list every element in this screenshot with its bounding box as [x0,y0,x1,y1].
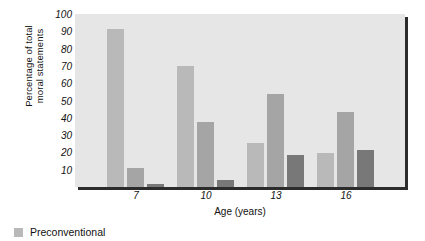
legend-swatch-preconventional [14,228,23,237]
x-axis-tick-labels: 7101316 [75,190,405,204]
legend-label-preconventional: Preconventional [30,226,105,238]
plot-area [75,14,405,187]
y-axis-tick-labels: 102030405060708090100 [40,10,72,190]
bar-age-13-series-0 [247,143,264,187]
bar-age-7-series-0 [107,29,124,187]
x-tick-16: 16 [340,190,351,201]
y-tick-80: 80 [61,43,72,54]
bar-age-10-series-1 [197,122,214,187]
bar-age-16-series-2 [357,150,374,187]
bar-group-age-10 [177,14,240,187]
chart-legend: Preconventional [14,226,105,238]
x-tick-7: 7 [133,190,139,201]
bar-group-age-13 [247,14,310,187]
y-tick-10: 10 [61,164,72,175]
x-tick-10: 10 [200,190,211,201]
x-axis-title: Age (years) [75,206,405,217]
bar-group-age-16 [317,14,380,187]
bar-age-13-series-1 [267,94,284,188]
bar-age-7-series-1 [127,168,144,187]
y-tick-20: 20 [61,147,72,158]
bar-age-16-series-0 [317,153,334,187]
x-tick-13: 13 [270,190,281,201]
y-tick-50: 50 [61,95,72,106]
y-tick-70: 70 [61,60,72,71]
bar-age-16-series-1 [337,112,354,187]
plot-area-wrapper [75,14,405,187]
y-tick-100: 100 [55,9,72,20]
y-tick-30: 30 [61,130,72,141]
y-tick-90: 90 [61,26,72,37]
y-tick-40: 40 [61,112,72,123]
chart-figure: Percentage of total moral statements 102… [0,0,425,241]
bar-age-10-series-0 [177,66,194,187]
bar-group-age-7 [107,14,170,187]
bar-age-13-series-2 [287,155,304,187]
bar-age-10-series-2 [217,180,234,187]
y-tick-60: 60 [61,78,72,89]
y-axis-title-line-1: Percentage of total [23,0,34,136]
bar-age-7-series-2 [147,184,164,187]
